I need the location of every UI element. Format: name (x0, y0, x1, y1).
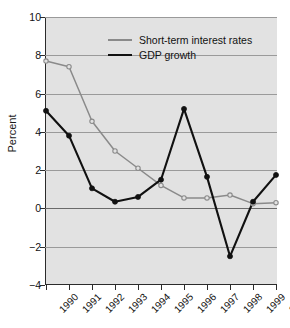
x-tick-mark-2000 (276, 285, 277, 290)
legend-item-rates: Short-term interest rates (108, 32, 252, 47)
data-point-short-term-interest-rates-1996 (182, 196, 186, 200)
x-tick-label-1990: 1990 (58, 292, 81, 315)
legend-item-gdp: GDP growth (108, 47, 252, 62)
y-tick-label-6: 6 (15, 89, 41, 100)
data-point-short-term-interest-rates-1994 (136, 166, 140, 170)
x-tick-mark-1998 (230, 285, 231, 290)
legend-label-gdp: GDP growth (139, 48, 196, 62)
data-point-gdp-growth-1999 (251, 199, 256, 204)
legend-label-rates: Short-term interest rates (139, 33, 252, 47)
data-point-gdp-growth-1996 (182, 106, 187, 111)
x-tick-label-1993: 1993 (127, 292, 150, 315)
y-tick-label--4: −4 (15, 280, 41, 291)
x-tick-mark-1992 (92, 285, 93, 290)
x-tick-label-1994: 1994 (150, 292, 173, 315)
data-point-short-term-interest-rates-1993 (113, 149, 117, 153)
x-tick-mark-1990 (46, 285, 47, 290)
x-tick-mark-1991 (69, 285, 70, 290)
data-point-gdp-growth-2000 (274, 172, 279, 177)
x-tick-mark-1994 (138, 285, 139, 290)
x-tick-label-2000: 2000 (288, 292, 290, 315)
y-tick-label-10: 10 (15, 12, 41, 23)
y-tick-label--2: −2 (15, 242, 41, 253)
x-tick-label-1999: 1999 (265, 292, 288, 315)
x-tick-mark-1995 (161, 285, 162, 290)
x-tick-mark-1999 (253, 285, 254, 290)
x-tick-label-1997: 1997 (219, 292, 242, 315)
data-point-short-term-interest-rates-1992 (90, 119, 94, 123)
data-point-gdp-growth-1990 (44, 108, 49, 113)
data-point-short-term-interest-rates-2000 (274, 200, 278, 204)
x-tick-label-1996: 1996 (196, 292, 219, 315)
y-tick-label-2: 2 (15, 165, 41, 176)
data-point-gdp-growth-1991 (67, 133, 72, 138)
legend-swatch-rates-icon (108, 39, 132, 41)
x-tick-label-1998: 1998 (242, 292, 265, 315)
x-tick-label-1991: 1991 (81, 292, 104, 315)
y-tick-mark--4 (40, 285, 45, 286)
data-point-gdp-growth-1995 (159, 177, 164, 182)
x-tick-label-1995: 1995 (173, 292, 196, 315)
data-point-short-term-interest-rates-1997 (205, 196, 209, 200)
line-chart: Percent −4−20246810 19901991199219931994… (0, 0, 290, 328)
chart-legend: Short-term interest rates GDP growth (108, 32, 252, 62)
x-tick-mark-1993 (115, 285, 116, 290)
data-point-gdp-growth-1994 (136, 194, 141, 199)
data-point-short-term-interest-rates-1995 (159, 183, 163, 187)
y-tick-label-8: 8 (15, 50, 41, 61)
data-point-short-term-interest-rates-1991 (67, 65, 71, 69)
data-point-gdp-growth-1997 (205, 174, 210, 179)
x-tick-label-1992: 1992 (104, 292, 127, 315)
data-point-short-term-interest-rates-1990 (44, 59, 48, 63)
x-tick-mark-1996 (184, 285, 185, 290)
data-point-short-term-interest-rates-1998 (228, 193, 232, 197)
x-tick-mark-1997 (207, 285, 208, 290)
y-tick-label-0: 0 (15, 203, 41, 214)
y-tick-label-4: 4 (15, 127, 41, 138)
data-point-gdp-growth-1992 (90, 186, 95, 191)
legend-swatch-gdp-icon (108, 54, 132, 56)
data-point-gdp-growth-1998 (228, 254, 233, 259)
data-point-gdp-growth-1993 (113, 199, 118, 204)
